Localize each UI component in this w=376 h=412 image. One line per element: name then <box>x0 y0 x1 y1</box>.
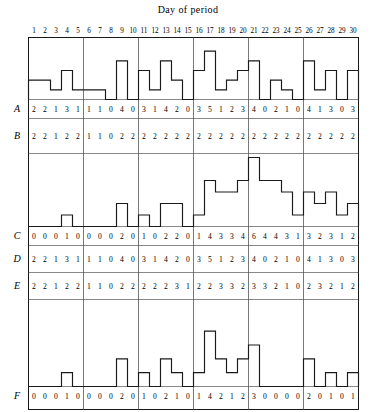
cell-value: 1 <box>87 255 91 264</box>
cell-value: 0 <box>131 105 135 114</box>
cell-value: 3 <box>230 282 234 291</box>
cell-value: 0 <box>109 392 113 401</box>
cell-value: 0 <box>109 132 113 141</box>
day-tick-label: 12 <box>151 27 159 35</box>
cell-value: 1 <box>65 232 69 241</box>
cell-value: 3 <box>197 105 201 114</box>
cell-value: 4 <box>164 255 168 264</box>
cell-value: 0 <box>32 232 36 241</box>
day-tick-label: 24 <box>283 27 291 35</box>
cell-value: 2 <box>230 255 234 264</box>
cell-value: 0 <box>186 232 190 241</box>
cell-value: 2 <box>175 255 179 264</box>
cell-value: 4 <box>307 105 311 114</box>
cell-value: 0 <box>340 255 344 264</box>
cell-value: 0 <box>54 232 58 241</box>
cell-value: 4 <box>241 232 245 241</box>
day-tick-label: 30 <box>349 27 357 35</box>
cell-value: 1 <box>340 282 344 291</box>
day-tick-label: 11 <box>141 27 148 35</box>
cell-value: 3 <box>329 232 333 241</box>
day-tick-label: 1 <box>32 27 36 35</box>
cell-value: 0 <box>109 282 113 291</box>
cell-value: 2 <box>230 132 234 141</box>
day-tick-label: 13 <box>162 27 170 35</box>
cell-value: 0 <box>131 232 135 241</box>
cell-value: 2 <box>318 132 322 141</box>
cell-value: 1 <box>87 105 91 114</box>
cell-value: 2 <box>175 105 179 114</box>
cell-value: 0 <box>43 392 47 401</box>
cell-value: 1 <box>98 255 102 264</box>
cell-value: 1 <box>197 232 201 241</box>
cell-value: 0 <box>186 105 190 114</box>
cell-value: 3 <box>219 282 223 291</box>
cell-value: 2 <box>32 282 36 291</box>
cell-value: 1 <box>98 282 102 291</box>
cell-value: 0 <box>76 392 80 401</box>
cell-value: 2 <box>164 392 168 401</box>
cell-value: 1 <box>98 105 102 114</box>
day-tick-label: 19 <box>228 27 236 35</box>
day-tick-label: 17 <box>206 27 214 35</box>
cell-value: 0 <box>153 392 157 401</box>
cell-value: 3 <box>65 105 69 114</box>
cell-value: 0 <box>285 392 289 401</box>
cell-value: 0 <box>131 255 135 264</box>
cell-value: 5 <box>208 105 212 114</box>
cell-value: 0 <box>340 392 344 401</box>
cell-value: 0 <box>296 105 300 114</box>
cell-value: 3 <box>65 255 69 264</box>
cell-value: 3 <box>285 232 289 241</box>
cell-value: 0 <box>274 392 278 401</box>
cell-value: 1 <box>54 282 58 291</box>
day-tick-label: 14 <box>173 27 181 35</box>
day-tick-label: 23 <box>272 27 280 35</box>
cell-value: 3 <box>329 255 333 264</box>
cell-value: 4 <box>274 232 278 241</box>
cell-value: 2 <box>351 132 355 141</box>
cell-value: 2 <box>241 282 245 291</box>
row-label-d: D <box>12 253 21 264</box>
cell-value: 1 <box>142 392 146 401</box>
cell-value: 3 <box>252 392 256 401</box>
cell-value: 1 <box>219 255 223 264</box>
day-tick-label: 21 <box>250 27 258 35</box>
cell-value: 4 <box>252 255 256 264</box>
cell-value: 3 <box>219 232 223 241</box>
cell-value: 4 <box>252 105 256 114</box>
row-label-c: C <box>14 230 21 241</box>
cell-value: 0 <box>109 105 113 114</box>
cell-value: 3 <box>329 105 333 114</box>
row-label-e: E <box>13 280 20 291</box>
cell-value: 2 <box>208 132 212 141</box>
cell-value: 2 <box>241 132 245 141</box>
cell-value: 0 <box>54 392 58 401</box>
cell-value: 2 <box>120 282 124 291</box>
cell-value: 1 <box>54 255 58 264</box>
cell-value: 2 <box>274 282 278 291</box>
cell-value: 0 <box>296 282 300 291</box>
cell-value: 2 <box>252 132 256 141</box>
cell-value: 2 <box>76 282 80 291</box>
cell-value: 2 <box>197 132 201 141</box>
cell-value: 3 <box>351 255 355 264</box>
day-tick-label: 22 <box>261 27 269 35</box>
cell-value: 1 <box>351 392 355 401</box>
cell-value: 1 <box>318 105 322 114</box>
cell-value: 3 <box>241 105 245 114</box>
cell-value: 2 <box>131 282 135 291</box>
figure-panel: Day of period 12345678910111213141516171… <box>0 0 376 412</box>
cell-value: 2 <box>43 255 47 264</box>
day-tick-label: 20 <box>239 27 247 35</box>
cell-value: 0 <box>186 255 190 264</box>
cell-value: 2 <box>285 132 289 141</box>
cell-value: 3 <box>142 255 146 264</box>
cell-value: 1 <box>197 392 201 401</box>
cell-value: 1 <box>296 232 300 241</box>
cell-value: 2 <box>241 392 245 401</box>
cell-value: 2 <box>43 282 47 291</box>
cell-value: 1 <box>76 105 80 114</box>
cell-value: 2 <box>197 282 201 291</box>
day-tick-label: 4 <box>65 27 69 35</box>
